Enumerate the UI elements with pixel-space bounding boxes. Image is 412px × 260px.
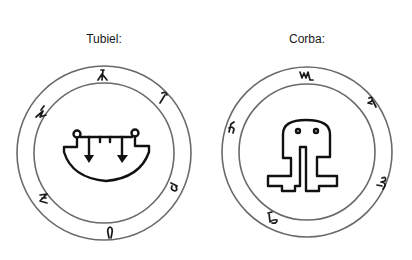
ring-glyph-hook-icon bbox=[160, 92, 167, 103]
seal-corba bbox=[222, 67, 392, 237]
seal-tubiel bbox=[17, 66, 191, 240]
corba-sigil bbox=[268, 120, 337, 191]
ring-glyph-b-icon bbox=[171, 183, 177, 191]
ring-glyph-h-icon bbox=[229, 122, 234, 133]
seals-diagram bbox=[0, 0, 412, 260]
ring-glyph-3-icon bbox=[377, 177, 386, 189]
ring-glyph-b-icon bbox=[268, 212, 277, 223]
ring-glyph-zeta-icon bbox=[40, 194, 47, 203]
inner-ring bbox=[34, 83, 174, 223]
ring-glyph-zigzag-icon bbox=[36, 106, 46, 117]
ring-glyph-m-icon bbox=[300, 72, 313, 80]
ring-glyph-omega-icon bbox=[108, 227, 113, 238]
ring-glyph-lambda-icon bbox=[98, 70, 107, 80]
ring-glyph-curl-icon bbox=[368, 97, 376, 107]
tubiel-sigil bbox=[64, 130, 149, 182]
